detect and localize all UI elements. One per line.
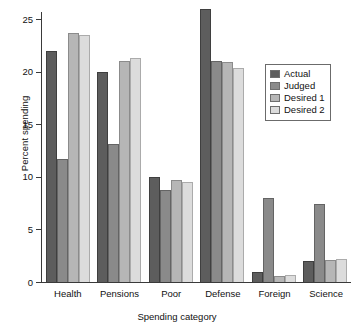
- bar: [285, 275, 296, 282]
- legend-label: Judged: [284, 81, 315, 91]
- y-axis-tick-label: 0: [28, 278, 33, 288]
- bar-group: [42, 12, 94, 282]
- plot-area: 0510152025: [41, 12, 351, 283]
- bar: [211, 61, 222, 282]
- bar: [149, 177, 160, 282]
- bar: [233, 68, 244, 282]
- legend-item: Desired 1: [270, 92, 325, 104]
- bar: [263, 198, 274, 282]
- bar: [182, 182, 193, 282]
- bar-group: [248, 12, 300, 282]
- legend-swatch-icon: [270, 94, 280, 102]
- y-axis-tick: 15: [36, 124, 41, 125]
- y-axis-tick-label: 25: [22, 15, 33, 25]
- legend-item: Actual: [270, 68, 325, 80]
- bar-group: [300, 12, 352, 282]
- bar: [68, 33, 79, 282]
- bar: [303, 261, 314, 282]
- x-axis-tick-label: Health: [42, 288, 94, 299]
- y-axis-tick-label: 10: [22, 173, 33, 183]
- bar-group: [145, 12, 197, 282]
- bar: [108, 144, 119, 282]
- bar-chart: Percent spending 0510152025 HealthPensio…: [0, 0, 354, 333]
- bar: [171, 180, 182, 282]
- bar: [200, 9, 211, 282]
- bar: [79, 35, 90, 282]
- y-axis-tick-label: 5: [28, 225, 33, 235]
- legend-label: Desired 1: [284, 93, 325, 103]
- bar: [130, 58, 141, 282]
- legend-swatch-icon: [270, 106, 280, 114]
- legend-label: Desired 2: [284, 105, 325, 115]
- y-axis-tick: 20: [36, 72, 41, 73]
- legend-item: Desired 2: [270, 104, 325, 116]
- x-axis-tick-label: Defense: [197, 288, 249, 299]
- legend-item: Judged: [270, 80, 325, 92]
- bar: [314, 204, 325, 282]
- bar: [160, 190, 171, 282]
- legend-swatch-icon: [270, 70, 280, 78]
- x-axis-tick-label: Science: [300, 288, 352, 299]
- bar: [274, 276, 285, 282]
- bar-group: [197, 12, 249, 282]
- x-axis-label: Spending category: [0, 311, 354, 322]
- y-axis-tick: 5: [36, 229, 41, 230]
- bar: [252, 272, 263, 283]
- bar: [336, 259, 347, 282]
- bar: [325, 260, 336, 282]
- x-axis-tick-labels: HealthPensionsPoorDefenseForeignScience: [42, 288, 352, 299]
- x-axis-tick-label: Foreign: [249, 288, 301, 299]
- bar: [97, 72, 108, 282]
- x-axis-line: [41, 282, 351, 283]
- y-axis-tick: 10: [36, 177, 41, 178]
- y-axis-tick: 0: [36, 282, 41, 283]
- bar: [57, 159, 68, 282]
- bar: [222, 62, 233, 282]
- bar-group: [94, 12, 146, 282]
- legend-label: Actual: [284, 69, 310, 79]
- bar-groups: [42, 12, 351, 282]
- y-axis-tick-label: 15: [22, 120, 33, 130]
- x-axis-tick-label: Pensions: [94, 288, 146, 299]
- bar: [119, 61, 130, 282]
- y-axis-tick: 25: [36, 19, 41, 20]
- chart-legend: ActualJudgedDesired 1Desired 2: [265, 64, 331, 121]
- y-axis-tick-label: 20: [22, 68, 33, 78]
- x-axis-tick-label: Poor: [145, 288, 197, 299]
- legend-swatch-icon: [270, 82, 280, 90]
- bar: [46, 51, 57, 282]
